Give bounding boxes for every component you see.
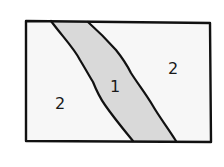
left-region-label: 2 — [55, 94, 65, 113]
right-region-label: 2 — [168, 59, 178, 78]
band-region-label: 1 — [110, 77, 120, 96]
region-diagram: 2 1 2 — [0, 0, 224, 167]
